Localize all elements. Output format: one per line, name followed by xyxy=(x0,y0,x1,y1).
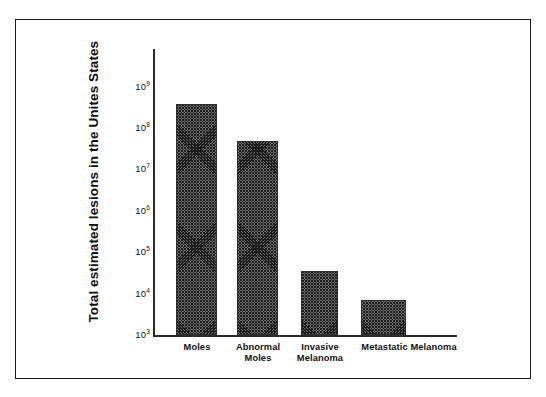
x-label-abnormal-moles-line1: Abnormal xyxy=(225,342,291,353)
x-label-abnormal-moles: Abnormal Moles xyxy=(225,342,291,364)
y-tick-labels: 109 108 107 106 105 104 103 xyxy=(112,20,150,380)
y-tick-1e6-exponent: 6 xyxy=(146,204,150,211)
bar-moles xyxy=(176,104,217,335)
bar-chart: Total estimated lesions in the Unites St… xyxy=(16,20,532,380)
y-tick-1e4: 104 xyxy=(116,289,150,299)
bar-abnormal-moles xyxy=(237,141,278,335)
y-tick-1e4-exponent: 4 xyxy=(146,287,150,294)
y-tick-1e5-mantissa: 10 xyxy=(135,246,146,257)
y-axis-line xyxy=(153,49,155,337)
x-label-metastatic-melanoma: Metastatic Melanoma xyxy=(353,342,465,353)
bar-metastatic-melanoma xyxy=(361,300,406,335)
y-tick-1e8: 108 xyxy=(116,123,150,133)
y-tick-1e5: 105 xyxy=(116,247,150,257)
y-tick-1e6: 106 xyxy=(116,206,150,216)
y-tick-1e5-exponent: 5 xyxy=(146,245,150,252)
bar-invasive-melanoma xyxy=(301,271,338,335)
y-tick-1e3: 103 xyxy=(116,330,150,340)
x-label-moles-line1: Moles xyxy=(166,342,228,353)
y-tick-1e6-mantissa: 10 xyxy=(135,205,146,216)
y-tick-1e3-mantissa: 10 xyxy=(135,329,146,340)
y-tick-1e7: 107 xyxy=(116,164,150,174)
figure-frame: Total estimated lesions in the Unites St… xyxy=(15,19,531,379)
y-tick-1e7-exponent: 7 xyxy=(146,162,150,169)
y-axis-title: Total estimated lesions in the Unites St… xyxy=(86,43,101,323)
x-label-invasive-melanoma-line2: Melanoma xyxy=(287,353,353,364)
x-label-metastatic-melanoma-line1: Metastatic Melanoma xyxy=(353,342,465,353)
x-label-invasive-melanoma-line1: Invasive xyxy=(287,342,353,353)
y-tick-1e9-exponent: 9 xyxy=(146,80,150,87)
x-label-invasive-melanoma: Invasive Melanoma xyxy=(287,342,353,364)
x-label-moles: Moles xyxy=(166,342,228,353)
x-label-abnormal-moles-line2: Moles xyxy=(225,353,291,364)
y-tick-1e7-mantissa: 10 xyxy=(135,163,146,174)
y-tick-1e3-exponent: 3 xyxy=(146,328,150,335)
y-tick-1e8-mantissa: 10 xyxy=(135,122,146,133)
y-tick-1e9: 109 xyxy=(116,82,150,92)
x-axis-line xyxy=(153,335,457,337)
y-tick-1e4-mantissa: 10 xyxy=(135,288,146,299)
y-tick-1e8-exponent: 8 xyxy=(146,121,150,128)
y-tick-1e9-mantissa: 10 xyxy=(135,81,146,92)
